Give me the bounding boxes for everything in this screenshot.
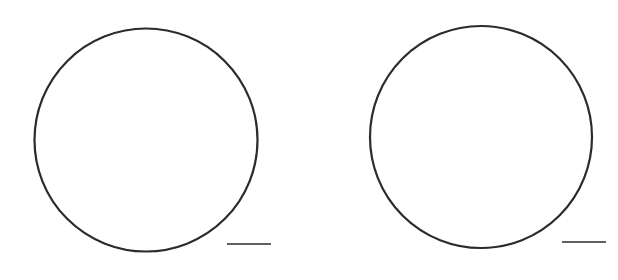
figure-canvas — [0, 0, 618, 280]
panel-right — [370, 26, 606, 248]
circle-outline — [35, 29, 258, 252]
circles-diagram — [0, 0, 618, 280]
panel-left — [35, 29, 272, 252]
circle-outline — [370, 26, 592, 248]
